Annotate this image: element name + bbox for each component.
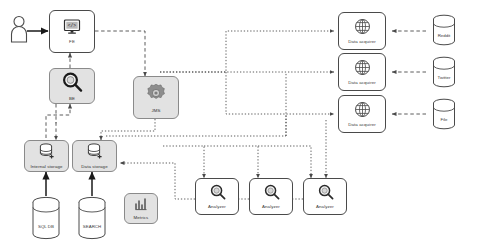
node-sql-db[interactable]: SQL DB <box>26 196 66 241</box>
node-data-storage[interactable]: Data storage <box>72 140 117 172</box>
node-source-file[interactable]: File <box>428 98 460 131</box>
node-analyzer-1[interactable]: Analyzer <box>195 178 239 215</box>
database-icon <box>86 143 104 163</box>
edge-fe-jms <box>95 31 145 76</box>
edge-jms-analyzer1 <box>163 146 204 178</box>
node-metrics[interactable]: Metrics <box>124 193 158 224</box>
node-sql-db-label: SQL DB <box>38 224 54 229</box>
edge-jms-acquirer1 <box>160 31 334 72</box>
node-data-acquirer-3[interactable]: Data acquirer <box>338 95 386 133</box>
database-icon <box>38 143 56 163</box>
node-analyzer-1-label: Analyzer <box>208 204 226 209</box>
magnifier-icon <box>317 184 334 203</box>
node-source-twitter-label: Twitter <box>438 75 451 80</box>
node-be[interactable]: BE <box>49 68 95 104</box>
cylinder-icon <box>428 56 460 89</box>
edge-jms-acquirer3 <box>226 72 334 114</box>
node-data-acquirer-2[interactable]: Data acquirer <box>338 53 386 91</box>
node-data-acquirer-1[interactable]: Data acquirer <box>338 12 386 50</box>
node-be-label: BE <box>69 96 75 101</box>
node-source-reddit[interactable]: Reddit <box>428 14 460 47</box>
edge-jms-datastorage <box>101 119 155 140</box>
gear-icon <box>144 82 168 107</box>
edge-jms-analyzer2 <box>204 146 258 178</box>
node-fe-label: FE <box>69 39 75 44</box>
node-metrics-label: Metrics <box>134 215 149 220</box>
node-jms-label: JMS <box>151 108 160 113</box>
node-search-label: SEARCH <box>83 224 101 229</box>
node-fe[interactable]: </> FE <box>49 10 95 53</box>
edge-internalstorage-be <box>46 104 70 138</box>
node-data-acquirer-3-label: Data acquirer <box>348 122 376 127</box>
node-analyzer-3-label: Analyzer <box>316 204 334 209</box>
node-source-file-label: File <box>440 117 447 122</box>
node-source-twitter[interactable]: Twitter <box>428 56 460 89</box>
cylinder-icon <box>26 196 66 241</box>
user-actor <box>8 14 30 44</box>
monitor-icon: </> <box>63 19 81 38</box>
node-data-acquirer-1-label: Data acquirer <box>348 39 376 44</box>
architecture-diagram-canvas: </> FE BE JMS <box>0 0 478 249</box>
magnifier-icon <box>263 184 280 203</box>
edge-jms-analyzer3 <box>258 146 311 178</box>
node-data-acquirer-2-label: Data acquirer <box>348 80 376 85</box>
node-internal-storage-label: Internal storage <box>30 164 62 169</box>
node-internal-storage[interactable]: Internal storage <box>24 140 69 172</box>
cylinder-icon <box>428 14 460 47</box>
node-jms[interactable]: JMS <box>133 76 179 119</box>
magnifier-icon <box>209 184 226 203</box>
globe-icon <box>354 59 371 79</box>
node-source-reddit-label: Reddit <box>438 33 451 38</box>
user-icon <box>8 14 30 44</box>
svg-text:</>: </> <box>68 23 77 28</box>
globe-icon <box>354 18 371 38</box>
node-analyzer-3[interactable]: Analyzer <box>303 178 347 215</box>
magnifier-icon <box>61 72 83 95</box>
node-analyzer-2[interactable]: Analyzer <box>249 178 293 215</box>
node-search[interactable]: SEARCH <box>72 196 112 241</box>
cylinder-icon <box>428 98 460 131</box>
node-data-storage-label: Data storage <box>81 164 107 169</box>
globe-icon <box>354 101 371 121</box>
cylinder-icon <box>72 196 112 241</box>
node-analyzer-2-label: Analyzer <box>262 204 280 209</box>
bar-chart-icon <box>134 197 148 214</box>
